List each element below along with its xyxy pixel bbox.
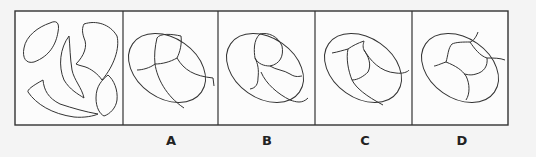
option-a-label[interactable]: A xyxy=(161,133,181,148)
option-d-label[interactable]: D xyxy=(452,133,472,148)
puzzle-diagram: A B C D xyxy=(0,0,536,157)
option-c-label[interactable]: C xyxy=(355,133,375,148)
option-b-label[interactable]: B xyxy=(257,133,277,148)
